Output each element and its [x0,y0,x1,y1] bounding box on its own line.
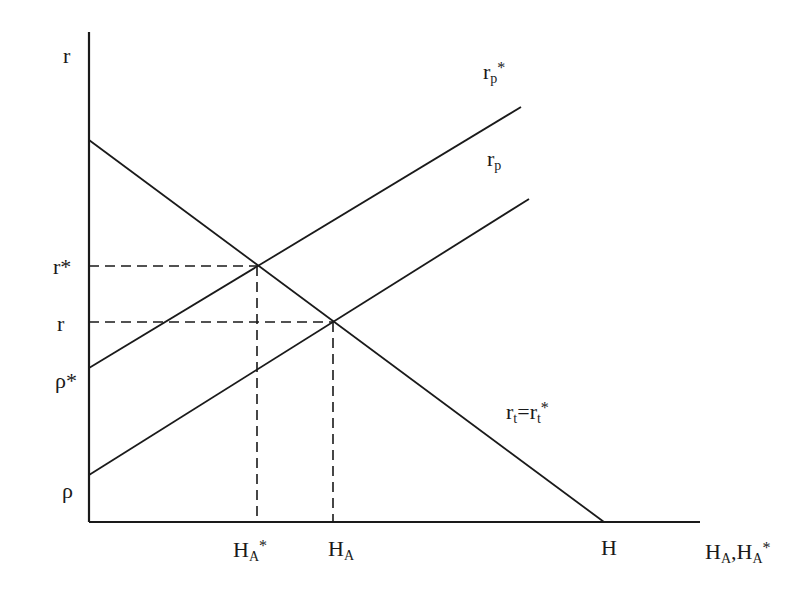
rp-star-label: rp* [483,60,505,86]
y-axis-label: r [63,45,70,67]
rp-curve [89,199,529,475]
rp-label: rp [487,148,501,173]
x-tick-ha-sub: A [344,548,354,563]
y-tick-rho-star: ρ* [55,370,77,392]
y-tick-rho: ρ [62,480,73,502]
x-tick-ha-star-main: H [233,537,249,562]
x-axis-label-h: H [705,539,721,564]
x-tick-ha-star-sub: A [249,549,259,564]
x-tick-ha: HA [328,538,354,563]
x-axis-label-sub2: A [752,551,762,566]
x-tick-h: H [601,537,617,559]
x-axis-label: HA,HA* [705,540,771,566]
x-tick-ha-star-star: * [259,537,267,554]
rp-star-label-star: * [497,59,505,76]
x-tick-ha-star: HA* [233,538,267,564]
rt-label-eq: = [517,399,529,424]
y-tick-r: r [57,313,64,335]
rp-label-sub: p [494,158,501,173]
diagram-canvas [0,0,808,595]
x-axis-label-star: * [763,539,771,556]
rt-label-star: * [541,399,549,416]
x-axis-label-h2: H [737,539,753,564]
rt-label-main2: r [530,399,537,424]
y-tick-r-star: r* [53,256,71,278]
rt-label: rt=rt* [506,400,549,426]
x-axis-label-sub: A [721,551,731,566]
x-tick-ha-main: H [328,536,344,561]
rt-curve [89,140,604,522]
rp-star-curve [89,107,521,368]
